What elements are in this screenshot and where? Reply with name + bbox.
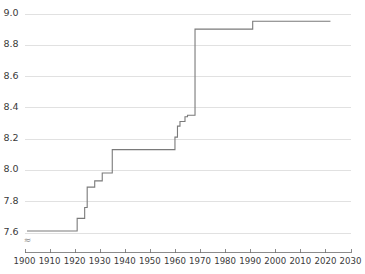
x-tick-label: 1920 bbox=[64, 256, 86, 266]
x-tick-labels-group: 1900191019201930194019501960197019801990… bbox=[14, 256, 362, 266]
x-tick-label: 1980 bbox=[214, 256, 236, 266]
x-tick-label: 1940 bbox=[114, 256, 136, 266]
x-tick-label: 2010 bbox=[289, 256, 311, 266]
x-tick-label: 1990 bbox=[239, 256, 261, 266]
record-progression-line bbox=[27, 21, 330, 231]
x-tick-label: 1970 bbox=[189, 256, 211, 266]
y-tick-label: 8.6 bbox=[3, 70, 18, 81]
x-tick-label: 2020 bbox=[314, 256, 336, 266]
x-tick-label: 1930 bbox=[89, 256, 111, 266]
y-tick-label: 8.4 bbox=[3, 101, 18, 112]
x-tick-label: 2000 bbox=[264, 256, 286, 266]
y-tick-label: 7.8 bbox=[3, 195, 18, 206]
x-tick-label: 2030 bbox=[340, 256, 362, 266]
y-tick-label: 8.2 bbox=[3, 132, 18, 143]
y-tick-label: 7.6 bbox=[3, 226, 18, 237]
y-tick-label: 8.0 bbox=[3, 163, 18, 174]
x-tick-label: 1950 bbox=[139, 256, 161, 266]
x-axis-group bbox=[25, 249, 352, 253]
axis-break-icon: ≈ bbox=[24, 235, 32, 245]
x-tick-label: 1910 bbox=[39, 256, 61, 266]
axis-break-group: ≈ bbox=[24, 235, 32, 245]
x-tick-label: 1900 bbox=[14, 256, 36, 266]
y-tick-label: 9.0 bbox=[3, 7, 18, 18]
y-tick-labels-group: 7.67.88.08.28.48.68.89.0 bbox=[3, 7, 18, 237]
x-tick-label: 1960 bbox=[164, 256, 186, 266]
chart-container: 7.67.88.08.28.48.68.89.0 190019101920193… bbox=[0, 0, 365, 274]
gridlines-group bbox=[25, 15, 351, 234]
y-tick-label: 8.8 bbox=[3, 38, 18, 49]
series-group bbox=[27, 21, 330, 231]
step-line-chart: 7.67.88.08.28.48.68.89.0 190019101920193… bbox=[0, 0, 365, 274]
